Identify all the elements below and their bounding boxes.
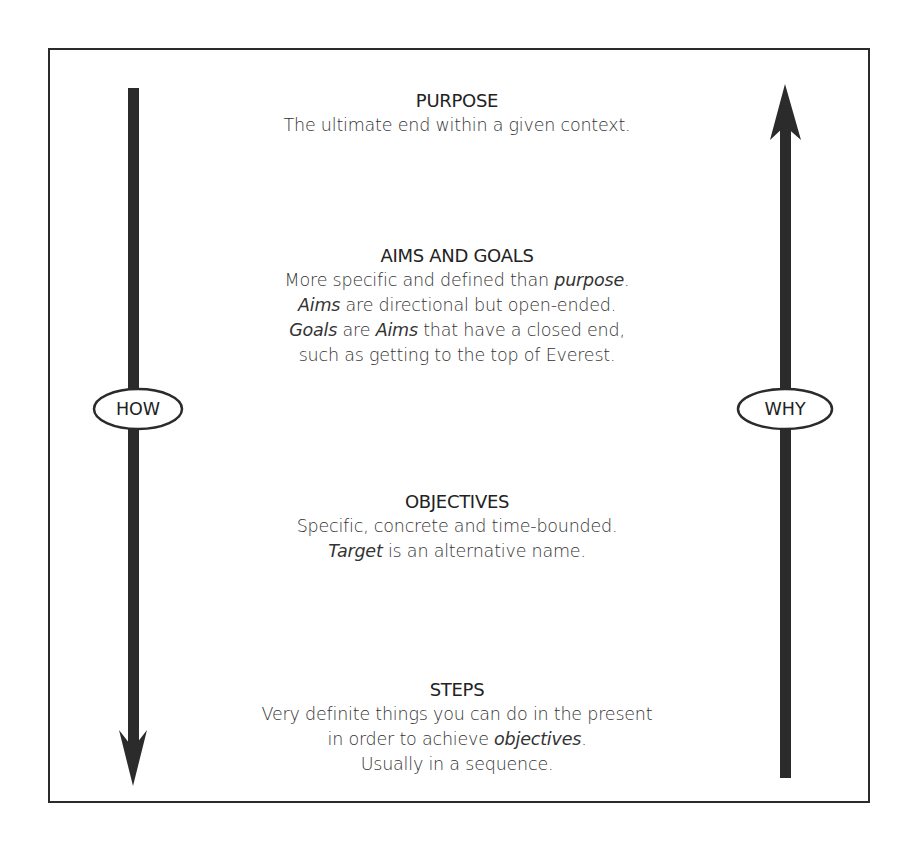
section-line: Very definite things you can do in the p… <box>200 702 714 727</box>
section-line: Specific, concrete and time-bounded. <box>200 514 714 539</box>
how-label: HOW <box>98 399 178 419</box>
body-text: The ultimate end within a given context. <box>284 115 631 135</box>
body-text: Usually in a sequence. <box>361 754 554 774</box>
section-purpose: PURPOSE The ultimate end within a given … <box>200 89 714 138</box>
emphasis-text: Goals <box>289 320 337 340</box>
emphasis-text: Target <box>328 541 382 561</box>
section-line: Aims are directional but open-ended. <box>200 293 714 318</box>
body-text: . <box>624 270 629 290</box>
body-text: are <box>337 320 375 340</box>
section-body: Specific, concrete and time-bounded.Targ… <box>200 514 714 564</box>
section-heading: PURPOSE <box>200 89 714 113</box>
body-text: Specific, concrete and time-bounded. <box>297 516 618 536</box>
body-text: More specific and defined than <box>285 270 555 290</box>
section-objectives: OBJECTIVES Specific, concrete and time-b… <box>200 490 714 564</box>
section-line: Usually in a sequence. <box>200 752 714 777</box>
body-text: in order to achieve <box>327 729 494 749</box>
how-arrow-down-icon <box>119 88 147 786</box>
section-heading: OBJECTIVES <box>200 490 714 514</box>
why-label: WHY <box>745 399 825 419</box>
section-line: such as getting to the top of Everest. <box>200 343 714 368</box>
section-line: in order to achieve objectives. <box>200 727 714 752</box>
emphasis-text: Aims <box>376 320 418 340</box>
body-text: such as getting to the top of Everest. <box>299 345 616 365</box>
emphasis-text: objectives <box>494 729 581 749</box>
section-body: More specific and defined than purpose.A… <box>200 268 714 368</box>
body-text: are directional but open-ended. <box>340 295 616 315</box>
body-text: Very definite things you can do in the p… <box>262 704 653 724</box>
section-heading: AIMS AND GOALS <box>200 244 714 268</box>
section-steps: STEPS Very definite things you can do in… <box>200 678 714 777</box>
body-text: that have a closed end, <box>418 320 625 340</box>
section-aims-and-goals: AIMS AND GOALS More specific and defined… <box>200 244 714 368</box>
section-line: Target is an alternative name. <box>200 539 714 564</box>
emphasis-text: purpose <box>554 270 624 290</box>
section-line: The ultimate end within a given context. <box>200 113 714 138</box>
why-arrow-up-icon <box>770 84 801 778</box>
emphasis-text: Aims <box>298 295 340 315</box>
section-line: More specific and defined than purpose. <box>200 268 714 293</box>
section-heading: STEPS <box>200 678 714 702</box>
body-text: is an alternative name. <box>383 541 586 561</box>
section-body: The ultimate end within a given context. <box>200 113 714 138</box>
body-text: . <box>581 729 586 749</box>
section-line: Goals are Aims that have a closed end, <box>200 318 714 343</box>
section-body: Very definite things you can do in the p… <box>200 702 714 777</box>
